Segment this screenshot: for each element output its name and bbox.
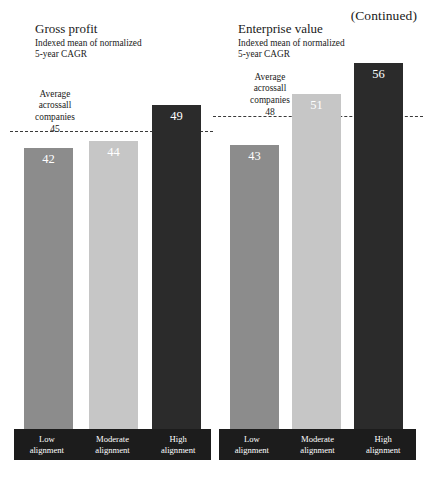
axis-label-low-line1: Low bbox=[15, 434, 79, 444]
chart-panel-gross-profit: Gross profit Indexed mean of normalized … bbox=[0, 0, 213, 477]
bar-low-alignment[interactable]: 42 bbox=[24, 148, 73, 429]
bar-moderate-alignment[interactable]: 51 bbox=[292, 94, 341, 429]
average-label-line3: companies bbox=[250, 95, 290, 105]
chart-panel-enterprise-value: Enterprise value Indexed mean of normali… bbox=[213, 0, 425, 477]
axis-label-moderate-line1: Moderate bbox=[81, 434, 145, 444]
axis-label-low-line1: Low bbox=[220, 434, 284, 444]
chart-page: (Continued) Gross profit Indexed mean of… bbox=[0, 0, 425, 477]
bar-high-alignment[interactable]: 49 bbox=[152, 105, 201, 429]
average-annotation: Average acrossall companies 45 bbox=[12, 89, 98, 134]
bar-moderate-alignment[interactable]: 44 bbox=[89, 141, 138, 429]
axis-label-moderate-line2: alignment bbox=[81, 445, 145, 455]
average-label-line2: acrossall bbox=[254, 83, 287, 93]
axis-label-high[interactable]: High alignment bbox=[350, 434, 416, 454]
axis-label-high-line2: alignment bbox=[351, 445, 415, 455]
average-label-line3: companies bbox=[35, 112, 75, 122]
bar-value-moderate: 51 bbox=[292, 98, 341, 112]
average-value: 45 bbox=[12, 123, 98, 134]
axis-label-moderate-line2: alignment bbox=[286, 445, 350, 455]
axis-label-moderate-line1: Moderate bbox=[286, 434, 350, 444]
axis-label-high-line1: High bbox=[146, 434, 210, 444]
plot-area: Average acrossall companies 45 42 44 49 bbox=[0, 0, 213, 430]
axis-label-low-line2: alignment bbox=[15, 445, 79, 455]
bar-value-moderate: 44 bbox=[89, 145, 138, 159]
average-label-line2: acrossall bbox=[39, 100, 72, 110]
bar-value-low: 42 bbox=[24, 152, 73, 166]
axis-label-high-line2: alignment bbox=[146, 445, 210, 455]
axis-label-low[interactable]: Low alignment bbox=[219, 434, 285, 454]
bar-value-low: 43 bbox=[230, 149, 279, 163]
axis-label-low[interactable]: Low alignment bbox=[14, 434, 80, 454]
bar-value-high: 56 bbox=[354, 67, 403, 81]
average-label-line1: Average bbox=[255, 72, 286, 82]
axis-label-moderate[interactable]: Moderate alignment bbox=[285, 434, 351, 454]
bar-value-high: 49 bbox=[152, 109, 201, 123]
category-axis-band: Low alignment Moderate alignment High al… bbox=[219, 429, 416, 460]
category-axis-band: Low alignment Moderate alignment High al… bbox=[14, 429, 211, 460]
bar-high-alignment[interactable]: 56 bbox=[354, 63, 403, 429]
axis-label-moderate[interactable]: Moderate alignment bbox=[80, 434, 146, 454]
axis-label-high[interactable]: High alignment bbox=[145, 434, 211, 454]
bar-low-alignment[interactable]: 43 bbox=[230, 145, 279, 429]
plot-area: Average acrossall companies 48 43 51 56 bbox=[213, 0, 425, 430]
axis-label-low-line2: alignment bbox=[220, 445, 284, 455]
axis-label-high-line1: High bbox=[351, 434, 415, 444]
average-label-line1: Average bbox=[40, 89, 71, 99]
